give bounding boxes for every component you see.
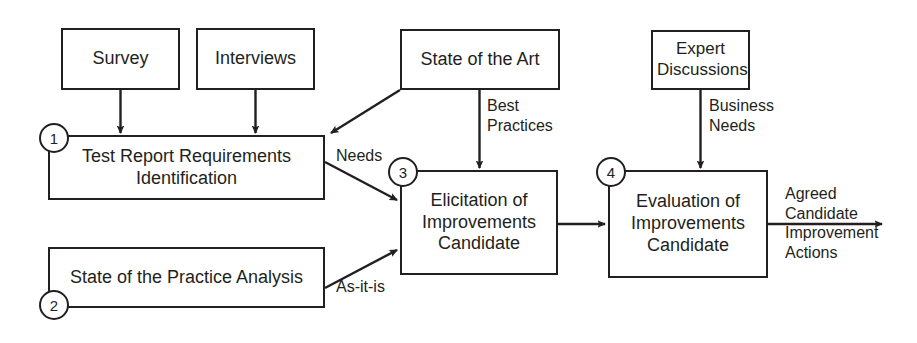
step-badge-3-label: 3 <box>399 164 407 181</box>
step-badge-4[interactable]: 4 <box>596 157 626 187</box>
node-survey[interactable]: Survey <box>61 28 180 90</box>
step-badge-2[interactable]: 2 <box>39 290 69 320</box>
step-badge-2-label: 2 <box>50 297 58 314</box>
node-evaluation-of-improvements-candidate[interactable]: Evaluation of Improvements Candidate <box>608 170 768 278</box>
node-expert-discussions-label: Expert Discussions <box>653 39 748 80</box>
node-state-of-the-practice-analysis[interactable]: State of the Practice Analysis <box>48 247 325 308</box>
step-badge-1-label: 1 <box>50 130 58 147</box>
node-elicitation-of-improvements-candidate-label: Elicitation of Improvements Candidate <box>402 190 556 256</box>
node-test-report-requirements-identification[interactable]: Test Report Requirements Identification <box>48 135 325 200</box>
edge-label-agreed-candidate-improvement-actions: Agreed Candidate Improvement Actions <box>785 184 878 262</box>
node-state-of-the-art-label: State of the Art <box>402 49 558 71</box>
node-test-report-requirements-identification-label: Test Report Requirements Identification <box>50 146 323 190</box>
edge-label-best-practices: Best Practices <box>487 96 553 135</box>
node-interviews-label: Interviews <box>198 48 313 70</box>
edge-label-as-it-is: As-it-is <box>336 277 385 297</box>
connector-requirements-to-elicitation <box>325 162 397 200</box>
connector-state-of-art-to-requirements <box>331 90 400 133</box>
edge-label-business-needs: Business Needs <box>709 96 774 135</box>
node-elicitation-of-improvements-candidate[interactable]: Elicitation of Improvements Candidate <box>400 170 558 275</box>
node-state-of-the-practice-analysis-label: State of the Practice Analysis <box>50 267 323 289</box>
edge-label-needs: Needs <box>336 146 382 166</box>
node-expert-discussions[interactable]: Expert Discussions <box>651 30 750 90</box>
process-diagram: Survey Interviews State of the Art Exper… <box>0 0 917 343</box>
node-evaluation-of-improvements-candidate-label: Evaluation of Improvements Candidate <box>610 191 766 257</box>
step-badge-1[interactable]: 1 <box>39 123 69 153</box>
node-state-of-the-art[interactable]: State of the Art <box>400 29 560 90</box>
step-badge-3[interactable]: 3 <box>388 157 418 187</box>
node-interviews[interactable]: Interviews <box>196 28 315 90</box>
step-badge-4-label: 4 <box>607 164 615 181</box>
node-survey-label: Survey <box>63 48 178 70</box>
